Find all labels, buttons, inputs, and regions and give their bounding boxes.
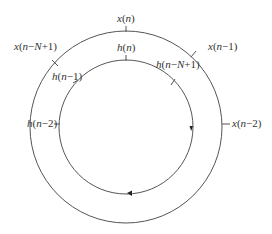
label-x-n-2: x(n−2)	[231, 117, 262, 130]
label-h-n: h(n)	[117, 41, 136, 54]
label-h-n-2: h(n−2)	[27, 117, 57, 130]
circular-buffer-diagram: x(n) x(n−1) x(n−2) x(n−N+1) h(n) h(n−1) …	[0, 0, 272, 234]
label-h-n-1: h(n−1)	[52, 70, 82, 83]
arrow-bottom-icon	[127, 191, 132, 197]
label-x-n-1: x(n−1)	[207, 40, 238, 53]
label-h-n-N-1: h(n−N+1)	[156, 58, 200, 71]
label-x-n: x(n)	[116, 12, 135, 25]
label-x-n-N-1: x(n−N+1)	[13, 40, 57, 53]
tick-x-n-1	[191, 51, 196, 57]
